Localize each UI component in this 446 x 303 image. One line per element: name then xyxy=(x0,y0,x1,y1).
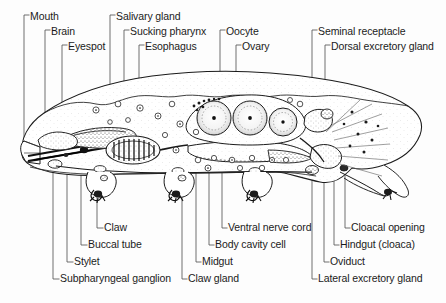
label-midgut: Midgut xyxy=(202,256,233,267)
claw-shape xyxy=(384,189,392,195)
claw-shape xyxy=(250,191,258,198)
label-subpharyngeal-ganglion: Subpharyngeal ganglion xyxy=(60,273,171,284)
label-salivary-gland: Salivary gland xyxy=(116,11,181,22)
label-cloacal-opening: Cloacal opening xyxy=(351,222,425,233)
label-lateral-excretory-gland: Lateral excretory gland xyxy=(318,273,423,284)
label-esophagus: Esophagus xyxy=(145,41,197,52)
label-stylet: Stylet xyxy=(74,256,100,267)
tardigrade-anatomy-figure: MouthBrainEyespotSalivary glandSucking p… xyxy=(0,0,446,303)
label-oviduct: Oviduct xyxy=(330,256,365,267)
claw-gland-shape xyxy=(100,175,107,181)
dorsal-excretory-gland-shape xyxy=(321,109,333,119)
label-mouth: Mouth xyxy=(30,11,59,22)
oocyte-shape xyxy=(269,108,297,136)
label-ventral-nerve-cord: Ventral nerve cord xyxy=(228,222,311,233)
claw-gland-shape xyxy=(178,175,186,181)
label-dorsal-excretory-gland: Dorsal excretory gland xyxy=(331,41,434,52)
label-claw: Claw xyxy=(104,222,127,233)
label-ovary: Ovary xyxy=(242,41,270,52)
label-sucking-pharynx: Sucking pharynx xyxy=(130,26,206,37)
label-claw-gland: Claw gland xyxy=(188,273,239,284)
label-brain: Brain xyxy=(51,26,75,37)
leg-claw-pair xyxy=(242,172,272,203)
label-seminal-receptacle: Seminal receptacle xyxy=(318,26,406,37)
oocyte-shape xyxy=(233,101,267,135)
lateral-excretory-gland-shape xyxy=(306,166,319,175)
sucking-pharynx-shape xyxy=(106,136,160,164)
label-body-cavity-cell: Body cavity cell xyxy=(215,239,286,250)
legs-group xyxy=(86,172,397,203)
label-eyespot: Eyespot xyxy=(68,41,105,52)
label-hindgut-cloaca: Hindgut (cloaca) xyxy=(340,239,415,250)
label-buccal-tube: Buccal tube xyxy=(88,239,142,250)
claw-shape xyxy=(94,191,102,198)
claw-shape xyxy=(172,191,180,198)
label-oocyte: Oocyte xyxy=(226,26,259,37)
